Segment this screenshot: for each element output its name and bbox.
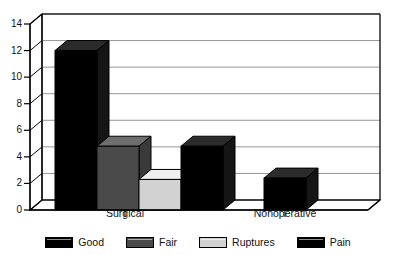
plot-area: 14 12 10 8 6 4 2 0 Surgical Nonoperative	[0, 0, 396, 225]
legend-label-good: Good	[78, 237, 104, 248]
y-tick-label-2: 2	[0, 178, 22, 188]
legend-label-pain: Pain	[330, 237, 351, 248]
y-tick-label-0: 0	[0, 205, 22, 215]
legend-label-fair: Fair	[159, 237, 177, 248]
legend-label-ruptures: Ruptures	[232, 237, 275, 248]
y-tick-label-4: 4	[0, 152, 22, 162]
chart-legend: Good Fair Ruptures Pain	[0, 232, 396, 252]
bar-nonoperative-pain	[264, 168, 318, 210]
legend-swatch-good	[45, 237, 73, 248]
legend-item-ruptures[interactable]: Ruptures	[199, 237, 275, 248]
legend-item-pain[interactable]: Pain	[297, 237, 351, 248]
bar-surgical-pain	[181, 136, 235, 210]
y-tick-label-6: 6	[0, 125, 22, 135]
y-tick-label-8: 8	[0, 99, 22, 109]
category-label-surgical: Surgical	[85, 208, 165, 219]
y-tick-label-12: 12	[0, 46, 22, 56]
category-label-nonoperative: Nonoperative	[235, 208, 335, 219]
bar-chart: 14 12 10 8 6 4 2 0 Surgical Nonoperative…	[0, 0, 396, 255]
legend-swatch-pain	[297, 237, 325, 248]
legend-item-good[interactable]: Good	[45, 237, 104, 248]
y-tick-label-10: 10	[0, 72, 22, 82]
chart-canvas	[0, 0, 396, 225]
y-tick-label-14: 14	[0, 19, 22, 29]
legend-swatch-ruptures	[199, 237, 227, 248]
left-wall	[30, 14, 42, 210]
legend-item-fair[interactable]: Fair	[126, 237, 177, 248]
legend-swatch-fair	[126, 237, 154, 248]
